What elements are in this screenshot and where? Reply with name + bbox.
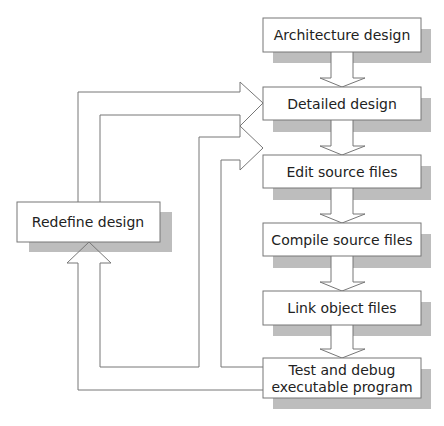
- node-label: Detailed design: [287, 96, 397, 112]
- node-edit-source-files: Edit source files: [263, 155, 421, 188]
- arrow-test-to-redefine: [67, 242, 263, 390]
- node-label: Architecture design: [274, 27, 411, 43]
- arrow-redefine-to-detailed: [78, 82, 263, 202]
- node-label: Compile source files: [271, 232, 412, 248]
- node-label-line1: Test and debug: [288, 362, 396, 378]
- node-label: Redefine design: [32, 214, 144, 230]
- arrow-test-to-edit: [199, 126, 263, 367]
- node-link-object-files: Link object files: [263, 291, 421, 325]
- node-label: Link object files: [287, 300, 396, 316]
- node-compile-source-files: Compile source files: [263, 223, 421, 256]
- flowchart: Architecture design Detailed design Edit…: [0, 0, 444, 426]
- node-architecture-design: Architecture design: [263, 18, 421, 52]
- node-label: Edit source files: [286, 164, 397, 180]
- node-test-and-debug: Test and debug executable program: [263, 358, 421, 398]
- node-label-line2: executable program: [271, 379, 412, 395]
- node-redefine-design: Redefine design: [17, 202, 160, 242]
- node-detailed-design: Detailed design: [263, 87, 421, 120]
